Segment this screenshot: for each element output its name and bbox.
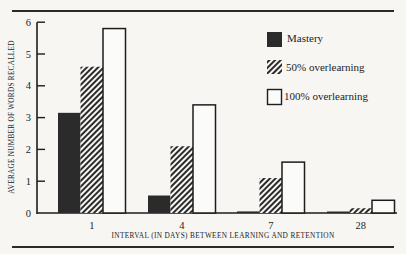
bar-50-overlearning-28	[350, 208, 373, 213]
bar-chart: 0123456 14728	[0, 0, 406, 254]
y-tick-label: 2	[26, 144, 31, 155]
bar-50-overlearning-4	[171, 146, 194, 213]
bar-100-overlearning-4	[193, 105, 216, 213]
legend	[267, 32, 282, 105]
bar-100-overlearning-28	[372, 200, 395, 213]
x-tick-label: 7	[268, 220, 273, 231]
bar-mastery-7	[237, 211, 260, 213]
x-tick-label: 4	[179, 220, 185, 231]
bar-50-overlearning-7	[260, 178, 283, 213]
bar-100-overlearning-7	[282, 162, 305, 213]
legend-label-mastery: Mastery	[287, 32, 323, 44]
bar-group-1: 1	[58, 29, 126, 231]
y-tick-label: 1	[26, 176, 31, 187]
legend-label-100-overlearning: 100% overlearning	[284, 90, 368, 102]
bar-100-overlearning-1	[103, 29, 126, 213]
legend-swatch-mastery	[267, 32, 282, 47]
y-tick-label: 3	[26, 112, 31, 123]
y-tick-label: 0	[26, 208, 31, 219]
x-tick-label: 28	[356, 220, 367, 231]
bar-mastery-28	[327, 212, 350, 214]
bar-group-7: 7	[237, 162, 305, 231]
bar-mastery-1	[58, 113, 81, 213]
bar-group-4: 4	[148, 105, 216, 231]
x-axis-label: INTERVAL (IN DAYS) BETWEEN LEARNING AND …	[100, 231, 346, 240]
y-axis-label: AVERAGE NUMBER OF WORDS RECALLED	[8, 22, 16, 212]
bar-50-overlearning-1	[81, 67, 104, 213]
y-tick-label: 5	[26, 49, 31, 60]
y-tick-label: 4	[26, 80, 32, 91]
legend-label-50-overlearning: 50% overlearning	[286, 61, 365, 73]
bar-group-28: 28	[327, 200, 395, 231]
legend-swatch-100-overlearning	[268, 90, 282, 105]
bar-mastery-4	[148, 196, 171, 213]
bars: 14728	[58, 29, 395, 231]
x-tick-label: 1	[89, 220, 94, 231]
y-tick-label: 6	[26, 17, 31, 28]
legend-swatch-50-overlearning	[267, 60, 282, 74]
